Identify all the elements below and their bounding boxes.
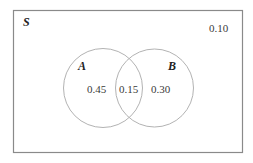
intersection-value: 0.15 [119,83,139,95]
a-only-value: 0.45 [87,83,107,95]
b-only-value: 0.30 [151,83,171,95]
set-a-label: A [77,59,86,73]
venn-diagram: S 0.10 A B 0.45 0.15 0.30 [0,0,253,163]
set-b-label: B [167,59,176,73]
outside-value: 0.10 [209,22,229,34]
sample-space-label: S [23,15,30,29]
